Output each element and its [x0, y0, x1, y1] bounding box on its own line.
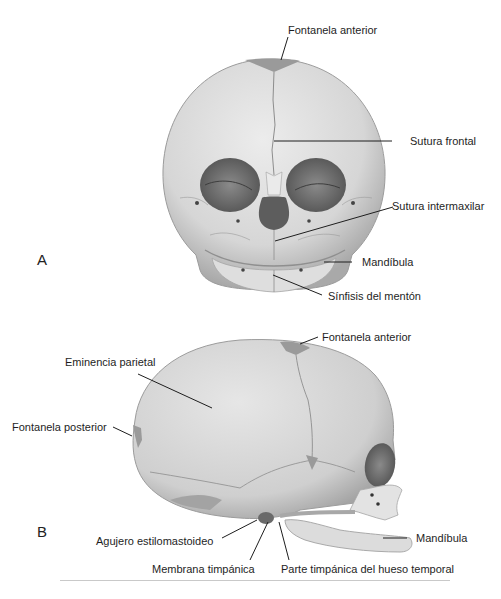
label-stylomastoid-foramen: Agujero estilomastoideo: [96, 535, 213, 548]
frontal-skull: [163, 59, 385, 292]
label-mental-symphysis: Sínfisis del mentón: [328, 290, 421, 303]
panel-letter-b: B: [37, 524, 47, 540]
nasal-aperture: [259, 197, 289, 231]
label-intermaxillary-suture: Sutura intermaxilar: [392, 200, 484, 213]
mandible-side: [285, 520, 412, 552]
right-orbit: [286, 158, 346, 212]
label-frontal-suture: Sutura frontal: [410, 135, 476, 148]
label-mandible-a: Mandíbula: [362, 256, 413, 269]
label-posterior-fontanel: Fontanela posterior: [12, 421, 107, 434]
left-orbit: [200, 158, 260, 212]
bottom-divider: [60, 580, 450, 581]
tympanic-region: [258, 512, 274, 524]
panel-letter-a: A: [37, 252, 47, 268]
label-tympanic-part-temporal: Parte timpánica del hueso temporal: [281, 563, 454, 576]
lateral-skull: [133, 340, 412, 552]
label-tympanic-membrane: Membrana timpánica: [152, 563, 255, 576]
label-mandible-b: Mandíbula: [416, 532, 467, 545]
label-anterior-fontanel-b: Fontanela anterior: [322, 331, 411, 344]
skull-illustrations: [0, 0, 501, 599]
label-parietal-eminence: Eminencia parietal: [65, 356, 156, 369]
label-anterior-fontanel-a: Fontanela anterior: [288, 24, 377, 37]
